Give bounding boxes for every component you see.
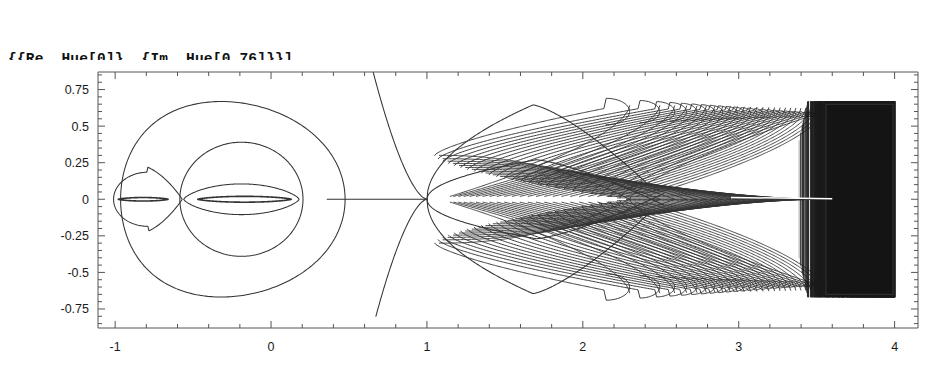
x-tick-label: 3	[735, 340, 742, 354]
x-tick-label: 2	[579, 340, 586, 354]
plot-figure: -1012340.750.50.250-0.25-0.5-0.75	[0, 60, 943, 372]
y-tick-label: -0.5	[67, 266, 89, 280]
dense-band-core	[826, 104, 893, 294]
y-tick-label: 0.5	[72, 120, 89, 134]
y-tick-label: 0.25	[65, 156, 89, 170]
plot-canvas: -1012340.750.50.250-0.25-0.5-0.75	[0, 60, 943, 372]
x-tick-label: -1	[110, 340, 121, 354]
x-tick-label: 4	[891, 340, 898, 354]
x-tick-label: 1	[423, 340, 430, 354]
y-tick-label: -0.75	[61, 302, 90, 316]
screenshot-root: {{Re, Hue[0]}, {Im, Hue[0.76]}}], PlotRa…	[0, 0, 943, 372]
x-tick-label: 0	[268, 340, 275, 354]
y-tick-label: -0.25	[61, 229, 90, 243]
y-tick-label: 0.75	[65, 83, 89, 97]
y-tick-label: 0	[82, 193, 89, 207]
